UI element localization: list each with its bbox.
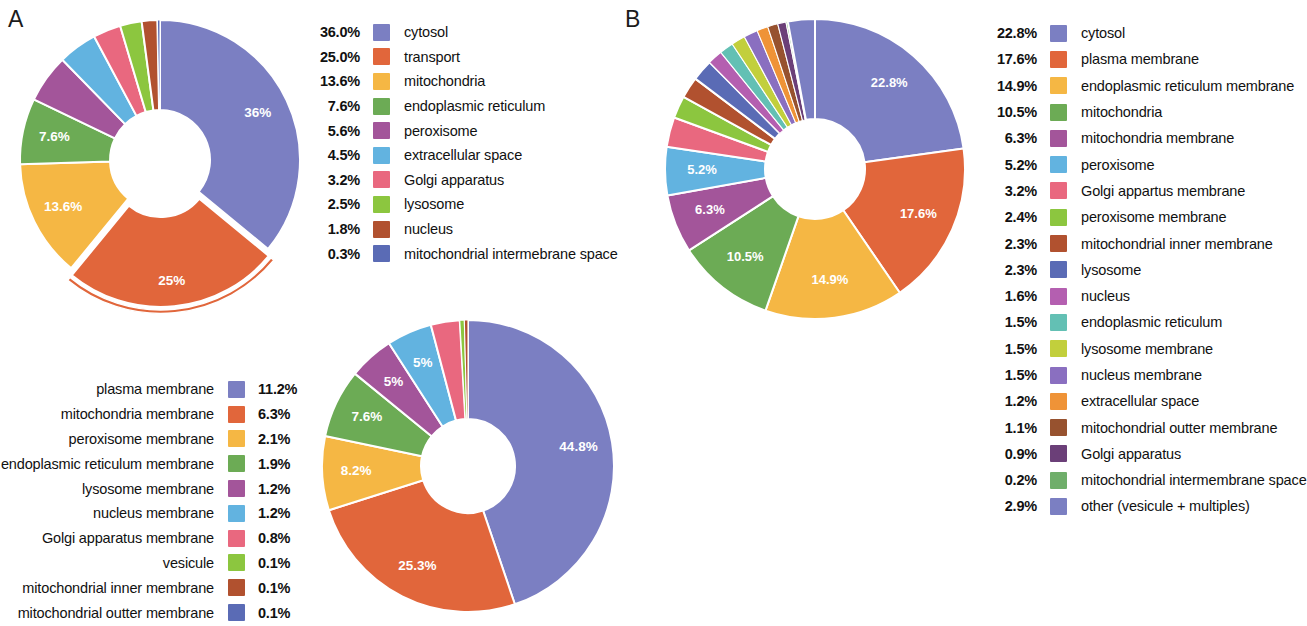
legend-color-swatch bbox=[1050, 472, 1067, 489]
legend-item-percent: 2.9% bbox=[995, 498, 1037, 514]
legend-item-percent: 14.9% bbox=[995, 78, 1037, 94]
legend-color-swatch bbox=[228, 579, 245, 596]
legend-item-percent: 0.1% bbox=[258, 605, 300, 621]
legend-item-percent: 0.9% bbox=[995, 446, 1037, 462]
legend-item: 0.2%mitochondrial intermembrane space bbox=[995, 467, 1307, 493]
legend-color-swatch bbox=[373, 122, 390, 139]
legend-color-swatch bbox=[228, 480, 245, 497]
legend-item: 10.5%mitochondria bbox=[995, 99, 1307, 125]
legend-item: 36.0%cytosol bbox=[312, 20, 618, 45]
pie-slice-value-label: 5% bbox=[384, 374, 404, 389]
legend-item: 1.5%endoplasmic reticulum bbox=[995, 309, 1307, 335]
panel-label-b: B bbox=[625, 6, 640, 33]
legend-color-swatch bbox=[228, 430, 245, 447]
legend-item-percent: 0.2% bbox=[995, 472, 1037, 488]
legend-item-percent: 0.1% bbox=[258, 555, 300, 571]
legend-item-label: endoplasmic reticulum bbox=[404, 98, 545, 114]
legend-item-percent: 1.5% bbox=[995, 341, 1037, 357]
legend-item-percent: 0.3% bbox=[312, 246, 360, 262]
legend-item-percent: 1.5% bbox=[995, 314, 1037, 330]
legend-color-swatch bbox=[228, 381, 245, 398]
legend-chart-c: plasma membrane11.2%mitochondria membran… bbox=[0, 377, 300, 625]
pie-slice-value-label: 17.6% bbox=[900, 206, 937, 221]
legend-item-percent: 22.8% bbox=[995, 25, 1037, 41]
legend-item-percent: 6.3% bbox=[258, 406, 300, 422]
legend-item-label: peroxisome membrane bbox=[69, 431, 214, 447]
legend-item-label: peroxisome membrane bbox=[1081, 209, 1226, 225]
legend-item-percent: 2.5% bbox=[312, 196, 360, 212]
legend-color-swatch bbox=[1050, 182, 1067, 199]
legend-item-label: plasma membrane bbox=[96, 381, 214, 397]
pie-slice-value-label: 36% bbox=[244, 105, 271, 120]
legend-item: 5.6%peroxisome bbox=[312, 118, 618, 143]
legend-item-percent: 5.2% bbox=[995, 157, 1037, 173]
pie-slice-value-label: 7.6% bbox=[39, 129, 70, 144]
legend-item: 17.6%plasma membrane bbox=[995, 46, 1307, 72]
legend-item-label: mitochondrial outter membrane bbox=[1081, 420, 1277, 436]
legend-item: plasma membrane11.2% bbox=[0, 377, 300, 402]
legend-item-label: plasma membrane bbox=[1081, 51, 1199, 67]
legend-item-label: mitochondria bbox=[404, 73, 485, 89]
legend-color-swatch bbox=[1050, 51, 1067, 68]
legend-item: 1.5%lysosome membrane bbox=[995, 336, 1307, 362]
legend-item-percent: 17.6% bbox=[995, 51, 1037, 67]
legend-item: 5.2%peroxisome bbox=[995, 151, 1307, 177]
legend-item-label: nucleus bbox=[404, 221, 453, 237]
legend-item: 14.9%endoplasmic reticulum membrane bbox=[995, 73, 1307, 99]
legend-item: 6.3%mitochondria membrane bbox=[995, 125, 1307, 151]
legend-chart-a: 36.0%cytosol25.0%transport13.6%mitochond… bbox=[312, 20, 618, 266]
legend-item-label: nucleus membrane bbox=[93, 505, 214, 521]
legend-item-label: extracellular space bbox=[404, 147, 522, 163]
legend-item-label: nucleus bbox=[1081, 288, 1130, 304]
legend-item: Golgi apparatus membrane0.8% bbox=[0, 526, 300, 551]
legend-color-swatch bbox=[1050, 209, 1067, 226]
legend-item: mitochondria membrane6.3% bbox=[0, 402, 300, 427]
pie-slice-value-label: 5% bbox=[413, 355, 433, 370]
legend-item-percent: 1.2% bbox=[258, 505, 300, 521]
legend-item-percent: 0.1% bbox=[258, 580, 300, 596]
legend-item-label: mitochondrial intermebrane space bbox=[404, 246, 618, 262]
legend-item-label: mitochondria bbox=[1081, 104, 1162, 120]
legend-item: 25.0%transport bbox=[312, 45, 618, 70]
legend-item: 2.9%other (vesicule + multiples) bbox=[995, 493, 1307, 519]
legend-color-swatch bbox=[373, 196, 390, 213]
pie-slice-value-label: 8.2% bbox=[341, 463, 372, 478]
legend-item: 3.2%Golgi appartus membrane bbox=[995, 178, 1307, 204]
legend-item: mitochondrial outter membrane0.1% bbox=[0, 600, 300, 625]
legend-item: nucleus membrane1.2% bbox=[0, 501, 300, 526]
legend-color-swatch bbox=[1050, 498, 1067, 515]
legend-item-label: cytosol bbox=[1081, 25, 1125, 41]
pie-slice-value-label: 5.2% bbox=[687, 162, 717, 177]
legend-item-label: mitochondria membrane bbox=[1081, 130, 1234, 146]
legend-item: endoplasmic reticulum membrane1.9% bbox=[0, 451, 300, 476]
legend-item-percent: 2.3% bbox=[995, 236, 1037, 252]
pie-slice-value-label: 25.3% bbox=[398, 558, 436, 573]
legend-item: lysosome membrane1.2% bbox=[0, 476, 300, 501]
legend-item: 1.1%mitochondrial outter membrane bbox=[995, 414, 1307, 440]
legend-item-label: endoplasmic reticulum membrane bbox=[1081, 78, 1294, 94]
legend-color-swatch bbox=[373, 73, 390, 90]
legend-item-percent: 1.2% bbox=[258, 481, 300, 497]
legend-item-percent: 11.2% bbox=[258, 381, 300, 397]
legend-item-label: nucleus membrane bbox=[1081, 367, 1202, 383]
pie-slice-value-label: 22.8% bbox=[871, 75, 908, 90]
legend-item: 2.3%lysosome bbox=[995, 257, 1307, 283]
legend-color-swatch bbox=[1050, 393, 1067, 410]
legend-item: 22.8%cytosol bbox=[995, 20, 1307, 46]
legend-item-label: lysosome membrane bbox=[82, 481, 214, 497]
legend-item: 2.5%lysosome bbox=[312, 192, 618, 217]
legend-color-swatch bbox=[1050, 367, 1067, 384]
legend-item-label: mitochondria membrane bbox=[61, 406, 214, 422]
legend-item-label: mitochondrial inner membrane bbox=[22, 580, 214, 596]
legend-color-swatch bbox=[1050, 261, 1067, 278]
legend-item: 2.3%mitochondrial inner membrane bbox=[995, 230, 1307, 256]
legend-color-swatch bbox=[1050, 130, 1067, 147]
pie-slice-value-label: 14.9% bbox=[811, 272, 848, 287]
legend-item-label: endoplasmic reticulum membrane bbox=[1, 456, 214, 472]
legend-item-percent: 13.6% bbox=[312, 73, 360, 89]
legend-item-percent: 36.0% bbox=[312, 24, 360, 40]
legend-item-percent: 2.3% bbox=[995, 262, 1037, 278]
legend-item: vesicule0.1% bbox=[0, 551, 300, 576]
legend-color-swatch bbox=[228, 505, 245, 522]
legend-item-percent: 2.4% bbox=[995, 209, 1037, 225]
